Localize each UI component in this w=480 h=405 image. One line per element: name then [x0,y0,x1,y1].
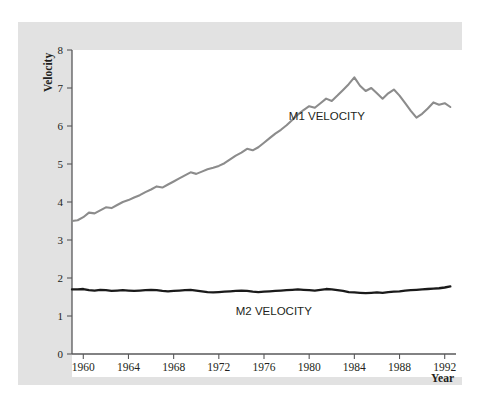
y-tick-label-0: 0 [58,348,64,360]
x-tick-label-1972: 1972 [207,361,230,373]
y-tick-label-4: 4 [58,196,64,208]
x-tick-label-1976: 1976 [253,361,276,373]
y-tick-label-1: 1 [58,310,64,322]
y-tick-label-5: 5 [58,158,64,170]
m1-series-label: M1 VELOCITY [289,110,365,122]
data-series [72,77,450,293]
y-tick-label-8: 8 [58,44,64,56]
m1-velocity-line [72,77,450,221]
x-tick-label-1960: 1960 [72,361,95,373]
y-tick-label-3: 3 [58,234,64,246]
x-axis-ticks: 196019641968197219761980198419881992 [72,354,457,373]
velocity-line-chart: 012345678 196019641968197219761980198419… [18,22,462,385]
y-axis-title: Velocity [42,53,55,92]
x-tick-label-1980: 1980 [298,361,321,373]
m2-velocity-line [72,286,450,293]
m2-series-label: M2 VELOCITY [236,305,312,317]
x-axis-title: Year [431,372,454,384]
x-tick-label-1988: 1988 [388,361,411,373]
x-tick-label-1964: 1964 [117,361,140,373]
y-tick-label-6: 6 [58,120,64,132]
y-tick-label-7: 7 [58,82,64,94]
x-tick-label-1984: 1984 [343,361,366,373]
y-tick-label-2: 2 [58,272,64,284]
chart-figure: 012345678 196019641968197219761980198419… [18,22,462,385]
y-axis-ticks: 012345678 [58,44,73,360]
x-tick-label-1968: 1968 [162,361,185,373]
